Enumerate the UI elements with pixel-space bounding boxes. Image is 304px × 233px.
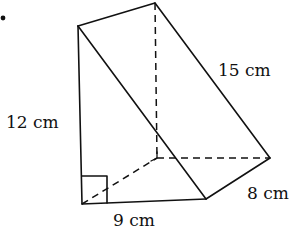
bullet-marker bbox=[1, 16, 6, 21]
top-edge bbox=[78, 3, 155, 26]
hypotenuse-label: 15 cm bbox=[218, 60, 271, 80]
back-depth-hidden-edge bbox=[82, 158, 157, 204]
back-corner-mark bbox=[151, 152, 157, 161]
front-base-edge bbox=[82, 199, 206, 204]
base-label: 9 cm bbox=[113, 210, 155, 230]
back-height-hidden-edge bbox=[155, 3, 157, 158]
front-hypotenuse-edge bbox=[78, 26, 206, 199]
prism-diagram: 12 cm 15 cm 9 cm 8 cm bbox=[0, 0, 304, 233]
depth-label: 8 cm bbox=[247, 183, 289, 203]
front-height-edge bbox=[78, 26, 82, 204]
back-hypotenuse-edge bbox=[155, 3, 270, 158]
height-label: 12 cm bbox=[6, 112, 59, 132]
right-angle-marker bbox=[82, 176, 107, 203]
